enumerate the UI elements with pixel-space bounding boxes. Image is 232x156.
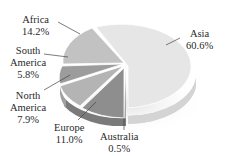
- label-africa-value: 14.2%: [22, 26, 49, 38]
- label-australia-name: Australia: [100, 131, 139, 143]
- label-south-america-name-1: South: [10, 45, 46, 57]
- label-australia: Australia 0.5%: [100, 131, 139, 155]
- label-south-america-name-2: America: [10, 57, 46, 69]
- label-australia-value: 0.5%: [100, 143, 139, 155]
- label-asia-name: Asia: [186, 28, 213, 40]
- label-north-america-name-2: America: [10, 102, 46, 114]
- label-north-america-value: 7.9%: [10, 114, 46, 126]
- label-africa: Africa 14.2%: [22, 14, 49, 38]
- label-europe-value: 11.0%: [54, 134, 84, 146]
- label-south-america-value: 5.8%: [10, 69, 46, 81]
- label-south-america: South America 5.8%: [10, 45, 46, 81]
- label-asia: Asia 60.6%: [186, 28, 213, 52]
- label-africa-name: Africa: [22, 14, 49, 26]
- label-north-america-name-1: North: [10, 90, 46, 102]
- label-north-america: North America 7.9%: [10, 90, 46, 126]
- label-europe: Europe 11.0%: [54, 122, 84, 146]
- label-asia-value: 60.6%: [186, 40, 213, 52]
- label-europe-name: Europe: [54, 122, 84, 134]
